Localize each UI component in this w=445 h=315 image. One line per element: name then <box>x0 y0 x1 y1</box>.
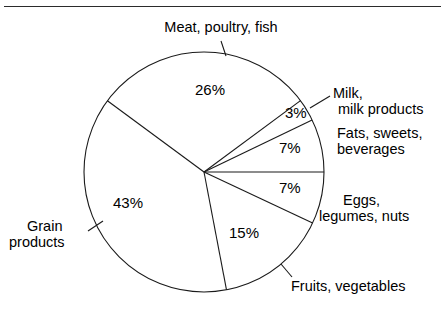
pie-chart-svg <box>0 0 445 315</box>
slice-label-eggs-line2: legumes, nuts <box>319 208 409 224</box>
slice-label-meat-poultry-fish: Meat, poultry, fish <box>131 19 311 35</box>
slice-value-meat: 26% <box>195 82 225 98</box>
slice-value-fruits: 15% <box>229 225 259 241</box>
leader-line-milk <box>310 96 330 108</box>
slice-label-eggs-line1: Eggs, <box>343 192 380 208</box>
slice-value-milk: 3% <box>285 105 307 121</box>
slice-label-grain-line2: products <box>9 234 65 250</box>
slice-label-fats-line2: beverages <box>337 141 405 157</box>
slice-value-fats: 7% <box>279 140 301 156</box>
leader-line-fruits <box>281 264 292 277</box>
slice-label-fruits-vegetables: Fruits, vegetables <box>291 278 405 294</box>
slice-label-milk-line1: Milk, <box>333 85 363 101</box>
slice-label-fats-line1: Fats, sweets, <box>337 125 422 141</box>
pie-chart-figure: Meat, poultry, fish Milk, milk products … <box>0 0 445 315</box>
slice-value-eggs: 7% <box>279 180 301 196</box>
slice-label-milk-line2: milk products <box>338 101 423 117</box>
slice-label-grain-line1: Grain <box>27 218 62 234</box>
slice-value-grain: 43% <box>113 195 143 211</box>
